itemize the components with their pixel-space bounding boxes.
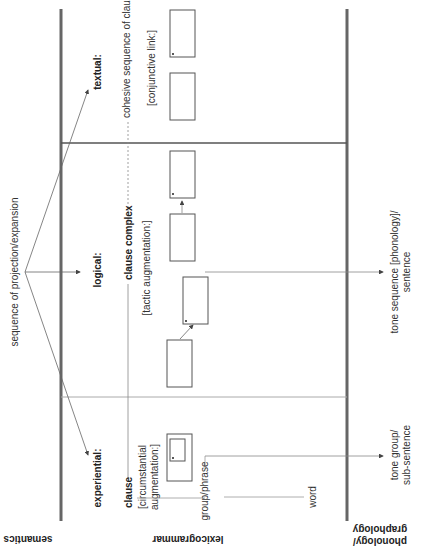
textual-note: [conjunctive link:] <box>146 30 157 106</box>
phonology-stratum-label-2: graphology <box>352 524 407 535</box>
tone-group-label-2: sub-sentence <box>401 425 412 485</box>
lexicogrammar-stratum-label: lexicogrammar <box>152 534 223 545</box>
logical-box-3-dot <box>185 320 187 322</box>
tone-sequence-label-2: sentence <box>401 251 412 292</box>
sequence-label: sequence of projection/expansion <box>9 198 20 347</box>
logical-box-2 <box>170 214 195 261</box>
phonology-stratum-label-1: phonology/ <box>353 536 407 547</box>
word-label: word <box>307 486 318 509</box>
textual-box-2 <box>170 73 195 120</box>
experiential-note-2: augmentation:] <box>149 444 160 510</box>
group-phrase-label: group/phrase <box>199 461 210 520</box>
experiential-unit: clause <box>123 476 134 508</box>
textual-label: textual: <box>92 54 103 90</box>
experiential-box-dot <box>172 457 174 459</box>
logical-arrow-2 <box>180 325 193 339</box>
logical-box-4 <box>167 340 192 387</box>
logical-box-3 <box>183 277 208 324</box>
experiential-note-1: [circumstantial <box>137 445 148 509</box>
logical-label: logical: <box>92 252 103 287</box>
textual-box-1 <box>170 10 195 57</box>
tone-group-label-1: tone group/ <box>389 429 400 480</box>
stratification-diagram: sequence of projection/expansion textual… <box>0 0 421 558</box>
logical-unit: clause complex <box>123 205 134 280</box>
tone-sequence-label-1: tone sequence [phonology]/ <box>389 210 400 333</box>
textual-box-1-dot <box>172 53 174 55</box>
semantics-stratum-label: semantics <box>3 534 52 545</box>
logical-note: [tactic augmentation:] <box>141 220 152 315</box>
experiential-label: experiential: <box>92 449 103 508</box>
textual-unit: cohesive sequence of clauses <box>121 0 132 118</box>
logical-box-1-dot <box>172 193 174 195</box>
logical-box-1 <box>170 151 195 198</box>
projection-arrows <box>25 90 88 455</box>
